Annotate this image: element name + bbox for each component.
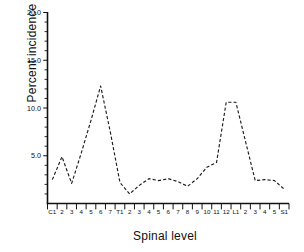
- x-tick-label: 7: [109, 208, 113, 215]
- x-tick-label: L1: [232, 208, 239, 215]
- x-tick-label: 6: [167, 208, 171, 215]
- x-tick-label: 3: [70, 208, 74, 215]
- y-axis-tick-labels: 5.010.015.020.0: [27, 8, 41, 160]
- x-tick-label: C1: [48, 208, 56, 215]
- data-series-line: [52, 86, 284, 194]
- x-tick-label: 2: [60, 208, 64, 215]
- x-tick-label: 4: [147, 208, 151, 215]
- x-tick-label: 12: [223, 208, 230, 215]
- x-tick-label: 4: [263, 208, 267, 215]
- x-axis-tick-labels: C1234567T123456789101112L12345S1: [48, 208, 288, 215]
- x-tick-label: 5: [89, 208, 93, 215]
- x-tick-label: 5: [273, 208, 277, 215]
- chart-figure: Percent incidence Spinal level 5.010.015…: [0, 0, 304, 252]
- x-tick-label: 2: [128, 208, 132, 215]
- x-tick-label: 3: [138, 208, 142, 215]
- x-tick-label: 11: [213, 208, 220, 215]
- y-tick-label: 15.0: [27, 56, 41, 65]
- y-tick-label: 20.0: [27, 8, 41, 17]
- x-tick-label: 10: [203, 208, 210, 215]
- x-tick-label: 6: [99, 208, 103, 215]
- y-tick-label: 5.0: [31, 151, 41, 160]
- x-tick-label: 4: [80, 208, 84, 215]
- x-tick-label: S1: [280, 208, 288, 215]
- y-tick-label: 10.0: [27, 104, 41, 113]
- x-tick-label: 9: [196, 208, 200, 215]
- x-tick-label: 5: [157, 208, 161, 215]
- x-tick-label: 2: [244, 208, 248, 215]
- x-tick-label: 8: [186, 208, 190, 215]
- x-tick-label: 3: [253, 208, 257, 215]
- plot-area: 5.010.015.020.0 C1234567T123456789101112…: [0, 0, 304, 252]
- x-tick-label: T1: [116, 208, 124, 215]
- x-tick-label: 7: [176, 208, 180, 215]
